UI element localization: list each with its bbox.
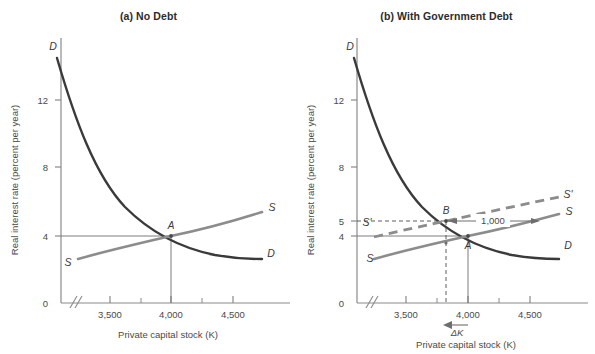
point-label-a: A	[167, 220, 175, 231]
x-axis-title: Private capital stock (K)	[118, 329, 218, 340]
supply-label-left: S	[366, 252, 373, 264]
demand-label-top: D	[49, 40, 57, 52]
panel-no-debt: (a) No Debt 12 8 4 0	[0, 0, 297, 354]
panel-b-plot: 12 8 5 4 0 3,500 4,000 4,500 Private cap…	[298, 0, 595, 354]
x-ticklabel-3500: 3,500	[98, 309, 122, 320]
demand-curve	[354, 58, 559, 259]
y-ticklabel-5: 5	[339, 216, 344, 227]
x-ticklabel-4000: 4,000	[456, 309, 480, 320]
x-ticklabel-3500: 3,500	[394, 309, 418, 320]
equilibrium-point-b	[444, 219, 448, 223]
y-ticklabel-8: 8	[43, 162, 48, 173]
point-label-b: B	[443, 205, 450, 216]
x-ticklabel-4500: 4,500	[518, 309, 542, 320]
x-axis-title: Private capital stock (K)	[416, 339, 516, 350]
supply-marker-dot	[444, 241, 447, 244]
y-ticklabel-0: 0	[339, 298, 344, 309]
axis-break-icon	[70, 296, 82, 308]
demand-label-right: D	[267, 247, 275, 259]
demand-curve	[57, 58, 262, 259]
y-ticklabel-8: 8	[339, 162, 344, 173]
equilibrium-point-a	[466, 234, 470, 238]
point-label-a: A	[464, 240, 472, 251]
panel-with-government-debt: (b) With Government Debt 12 8 5 4 0	[298, 0, 595, 354]
y-ticklabel-12: 12	[37, 95, 48, 106]
x-ticklabel-4500: 4,500	[221, 309, 245, 320]
supply-label-right: S	[268, 201, 275, 213]
capital-change-label: ΔK	[450, 327, 464, 338]
supply-label-right: S	[565, 205, 572, 217]
shift-amount-label: 1,000	[481, 215, 505, 226]
y-ticklabel-4: 4	[43, 231, 48, 242]
y-axis-title: Real interest rate (percent per year)	[9, 105, 20, 255]
panel-a-plot: 12 8 4 0 3,500 4,000 4,500 Private capit…	[0, 0, 297, 354]
demand-label-right: D	[564, 239, 572, 251]
supply-label-left: S	[64, 256, 71, 268]
supply-shifted-label-right: S'	[563, 188, 573, 200]
y-axis-title: Real interest rate (percent per year)	[305, 105, 316, 255]
x-ticklabel-4000: 4,000	[159, 309, 183, 320]
supply-shifted-label-left: S'	[362, 216, 372, 228]
demand-label-top: D	[346, 40, 354, 52]
y-ticklabel-12: 12	[333, 95, 344, 106]
figure-container: (a) No Debt 12 8 4 0	[0, 0, 595, 354]
equilibrium-point-a	[169, 234, 173, 238]
axis-break-icon	[366, 296, 378, 308]
supply-curve-shifted	[374, 197, 559, 237]
y-ticklabel-4: 4	[339, 231, 344, 242]
y-ticklabel-0: 0	[43, 298, 48, 309]
